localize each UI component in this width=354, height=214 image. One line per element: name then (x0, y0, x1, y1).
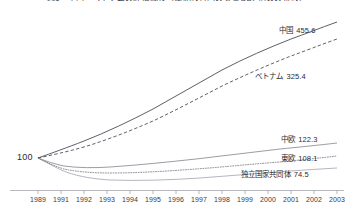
baseline-value-label: 100 (17, 152, 33, 162)
series-label-china-value: 455.6 (296, 26, 315, 35)
x-tick-label-2002: 2002 (306, 196, 322, 203)
x-tick-label-1998: 1998 (214, 196, 230, 203)
chart-figure: 図1 中国・ベトナムの経済成長（体制移行国の実質GDP指数の推移） (0, 0, 354, 214)
x-tick-label-2003: 2003 (329, 196, 345, 203)
series-label-central-europe: 中欧122.3 (281, 133, 317, 144)
x-axis-label-row: 1989 1991 1992 1993 1994 1995 1996 1997 … (0, 196, 354, 208)
x-tick-label-1993: 1993 (99, 196, 115, 203)
series-label-vietnam-name: ベトナム (255, 72, 283, 81)
x-tick-label-1995: 1995 (145, 196, 161, 203)
series-label-vietnam: ベトナム325.4 (255, 70, 306, 81)
x-tick-label-1999: 1999 (237, 196, 253, 203)
series-label-vietnam-value: 325.4 (286, 72, 305, 81)
x-tick-label-1994: 1994 (122, 196, 138, 203)
series-label-eastern-europe-name: 東欧 (281, 154, 295, 163)
x-tick-label-1997: 1997 (191, 196, 207, 203)
x-axis-ticks (38, 191, 337, 195)
series-label-cis: 独立国家共同体74.5 (241, 168, 309, 179)
x-tick-label-1996: 1996 (168, 196, 184, 203)
series-label-eastern-europe: 東欧108.1 (281, 152, 317, 163)
x-tick-label-1989: 1989 (30, 196, 46, 203)
x-tick-label-2000: 2000 (260, 196, 276, 203)
series-label-central-europe-value: 122.3 (298, 135, 317, 144)
x-tick-label-1992: 1992 (76, 196, 92, 203)
series-label-cis-name: 独立国家共同体 (241, 170, 291, 179)
series-label-eastern-europe-value: 108.1 (298, 154, 317, 163)
series-label-central-europe-name: 中欧 (281, 135, 295, 144)
x-tick-label-1991: 1991 (53, 196, 69, 203)
series-label-cis-value: 74.5 (294, 170, 309, 179)
series-label-china-name: 中国 (279, 26, 293, 35)
x-tick-label-2001: 2001 (283, 196, 299, 203)
series-label-china: 中国455.6 (279, 24, 315, 35)
